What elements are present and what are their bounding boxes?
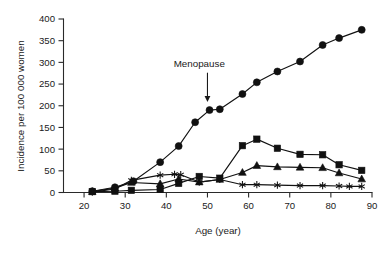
x-tick-label: 70 <box>284 200 295 211</box>
marker-square <box>274 145 280 151</box>
marker-square <box>359 167 365 173</box>
marker-circle <box>216 106 223 113</box>
marker-circle <box>175 143 182 150</box>
incidence-by-age-chart: 050100150200250300350400 Incidence per 1… <box>0 0 387 253</box>
marker-square <box>239 142 245 148</box>
chart-canvas: 050100150200250300350400 Incidence per 1… <box>0 0 387 253</box>
marker-circle <box>253 79 260 86</box>
marker-circle <box>192 119 199 126</box>
marker-circle <box>206 107 213 114</box>
marker-square <box>254 136 260 142</box>
marker-square <box>297 151 303 157</box>
x-tick-label: 60 <box>243 200 254 211</box>
y-tick-label: 150 <box>39 122 55 133</box>
x-tick-label: 90 <box>367 200 378 211</box>
y-tick-label: 350 <box>39 35 55 46</box>
y-tick-label: 250 <box>39 78 55 89</box>
marker-square <box>319 152 325 158</box>
marker-circle <box>157 159 164 166</box>
chart-background <box>0 0 387 253</box>
y-tick-label: 0 <box>50 187 55 198</box>
x-tick-label: 20 <box>79 200 90 211</box>
marker-square <box>336 162 342 168</box>
y-tick-label: 100 <box>39 144 55 155</box>
marker-square <box>157 186 163 192</box>
annotation-label: Menopause <box>174 58 226 69</box>
marker-circle <box>239 91 246 98</box>
marker-circle <box>274 68 281 75</box>
x-tick-label: 50 <box>202 200 213 211</box>
y-tick-label: 400 <box>39 13 55 24</box>
marker-circle <box>358 26 365 33</box>
marker-square <box>128 187 134 193</box>
x-tick-label: 30 <box>120 200 131 211</box>
y-tick-label: 200 <box>39 100 55 111</box>
y-tick-label: 50 <box>44 165 55 176</box>
x-tick-label: 40 <box>161 200 172 211</box>
marker-circle <box>336 35 343 42</box>
marker-circle <box>319 42 326 49</box>
x-tick-label: 80 <box>326 200 337 211</box>
y-tick-label: 300 <box>39 57 55 68</box>
x-axis-title: Age (year) <box>195 225 241 236</box>
marker-circle <box>297 58 304 65</box>
y-axis-title: Incidence per 100 000 women <box>15 40 26 171</box>
